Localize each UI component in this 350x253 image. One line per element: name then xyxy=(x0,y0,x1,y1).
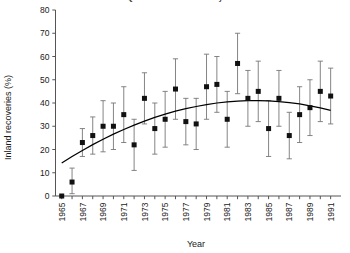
data-point xyxy=(173,87,178,92)
y-axis-title: Inland recoveries (%) xyxy=(3,75,13,160)
x-tick-label-1977: 1977 xyxy=(181,202,191,221)
y-tick-label-60: 60 xyxy=(40,52,50,62)
chart-title: Quorn Pintail Tail Secondary xyxy=(0,0,350,1)
x-tick-label-1967: 1967 xyxy=(78,202,88,221)
x-tick-label-1989: 1989 xyxy=(305,202,315,221)
data-point xyxy=(80,140,85,145)
data-point xyxy=(225,117,230,122)
x-tick-label-1975: 1975 xyxy=(160,202,170,221)
x-tick-label-1973: 1973 xyxy=(140,202,150,221)
data-point xyxy=(276,96,281,101)
y-tick-label-70: 70 xyxy=(40,28,50,38)
x-tick-group: 1965196719691971197319751977197919811983… xyxy=(57,196,336,221)
y-tick-label-50: 50 xyxy=(40,75,50,85)
y-tick-label-20: 20 xyxy=(40,145,50,155)
data-point xyxy=(183,119,188,124)
data-point xyxy=(307,105,312,110)
x-tick-label-1971: 1971 xyxy=(119,202,129,221)
data-point xyxy=(266,126,271,131)
x-tick-label-1969: 1969 xyxy=(98,202,108,221)
y-tick-label-40: 40 xyxy=(40,98,50,108)
data-point xyxy=(235,61,240,66)
data-point xyxy=(318,89,323,94)
x-tick-label-1983: 1983 xyxy=(243,202,253,221)
x-tick-label-1985: 1985 xyxy=(264,202,274,221)
data-point xyxy=(256,89,261,94)
x-tick-label-1991: 1991 xyxy=(326,202,336,221)
data-point xyxy=(152,126,157,131)
data-point xyxy=(204,84,209,89)
data-point xyxy=(194,121,199,126)
data-point xyxy=(214,82,219,87)
errorbar-group xyxy=(69,33,333,193)
data-point xyxy=(101,124,106,129)
data-point xyxy=(163,117,168,122)
data-point xyxy=(142,96,147,101)
y-tick-group: 01020304050607080 xyxy=(40,5,55,201)
x-axis-title: Year xyxy=(187,239,205,249)
data-point xyxy=(90,133,95,138)
x-tick-label-1965: 1965 xyxy=(57,202,67,221)
data-point xyxy=(245,96,250,101)
x-tick-label-1979: 1979 xyxy=(202,202,212,221)
y-tick-label-0: 0 xyxy=(45,191,50,201)
y-tick-label-10: 10 xyxy=(40,168,50,178)
x-tick-label-1987: 1987 xyxy=(284,202,294,221)
data-point xyxy=(59,194,64,199)
data-point xyxy=(297,112,302,117)
chart-plot-area: 01020304050607080 1965196719691971197319… xyxy=(0,0,350,253)
data-point xyxy=(70,180,75,185)
chart-title-clipped: Quorn Pintail Tail Secondary xyxy=(0,0,350,7)
x-tick-label-1981: 1981 xyxy=(222,202,232,221)
axes-group xyxy=(56,10,342,196)
chart-figure: Quorn Pintail Tail Secondary 01020304050… xyxy=(0,0,350,253)
data-point xyxy=(111,124,116,129)
data-point xyxy=(287,133,292,138)
data-point xyxy=(328,94,333,99)
data-point xyxy=(132,142,137,147)
y-tick-label-30: 30 xyxy=(40,121,50,131)
data-point xyxy=(121,112,126,117)
